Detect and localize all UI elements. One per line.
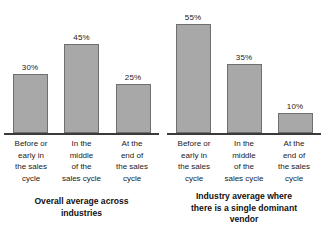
category-axis-labels: Before orearly inthe salescycle In themi… bbox=[8, 138, 155, 184]
category-label: At theend ofthe salescycle bbox=[271, 138, 317, 184]
bar-rect bbox=[64, 44, 99, 133]
bar-slot: 45% bbox=[60, 0, 104, 133]
bar-group: 30% 45% 25% bbox=[8, 0, 155, 133]
bar-group: 55% 35% 10% bbox=[171, 0, 317, 133]
two-panel-bar-chart-figure: 30% 45% 25% Before orearly inthe salescy… bbox=[0, 0, 325, 242]
bar-value-label: 30% bbox=[22, 63, 38, 73]
bar-rect bbox=[13, 74, 48, 133]
x-axis-line bbox=[4, 133, 159, 135]
category-axis-labels: Before orearly inthe salescycle In themi… bbox=[171, 138, 317, 184]
category-label: At theend ofthe salescycle bbox=[109, 138, 155, 184]
category-label: In themiddleof thesales cycle bbox=[59, 138, 105, 184]
bar-rect bbox=[227, 64, 262, 133]
bar-value-label: 45% bbox=[73, 33, 89, 43]
category-label: In themiddleof thesales cycle bbox=[221, 138, 267, 184]
category-label: Before orearly inthe salescycle bbox=[8, 138, 54, 184]
bar-value-label: 25% bbox=[125, 73, 141, 83]
bar-value-label: 10% bbox=[287, 102, 303, 112]
panel-caption: Overall average acrossindustries bbox=[4, 196, 159, 219]
bar-slot: 35% bbox=[222, 0, 266, 133]
bar-rect bbox=[116, 84, 151, 134]
x-axis-line bbox=[167, 133, 321, 135]
bar-slot: 10% bbox=[273, 0, 317, 133]
category-label: Before orearly inthe salescycle bbox=[171, 138, 217, 184]
bar-rect bbox=[278, 113, 313, 133]
chart-panel-overall-average: 30% 45% 25% Before orearly inthe salescy… bbox=[0, 0, 163, 242]
plot-area: 30% 45% 25% bbox=[0, 0, 163, 135]
bar-slot: 25% bbox=[111, 0, 155, 133]
panel-caption: Industry average wherethere is a single … bbox=[167, 191, 321, 226]
chart-panel-dominant-vendor: 55% 35% 10% Before orearly inthe salescy… bbox=[163, 0, 325, 242]
plot-area: 55% 35% 10% bbox=[163, 0, 325, 135]
bar-value-label: 35% bbox=[236, 53, 252, 63]
bar-slot: 55% bbox=[171, 0, 215, 133]
bar-slot: 30% bbox=[8, 0, 52, 133]
bar-value-label: 55% bbox=[185, 13, 201, 23]
bar-rect bbox=[176, 24, 211, 133]
